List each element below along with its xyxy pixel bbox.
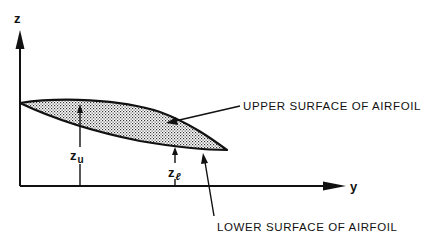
y-axis xyxy=(20,182,346,191)
airfoil-diagram: z y zu zℓ UPPER SURFACE OF AIRFOIL LOWER… xyxy=(0,0,425,248)
upper-surface-callout: UPPER SURFACE OF AIRFOIL xyxy=(243,100,421,112)
z-axis-arrowhead-icon xyxy=(16,30,25,49)
z-axis-label: z xyxy=(14,11,21,26)
y-axis-label: y xyxy=(350,179,358,194)
lower-surface-leader xyxy=(201,153,214,216)
y-axis-arrowhead-icon xyxy=(323,182,346,191)
upper-surface-leader xyxy=(166,106,240,125)
airfoil-section xyxy=(20,100,227,150)
upper-dimension-label: zu xyxy=(70,148,84,165)
lower-dimension-label: zℓ xyxy=(168,165,182,182)
lower-surface-callout: LOWER SURFACE OF AIRFOIL xyxy=(217,221,398,233)
arrowhead-icon xyxy=(172,147,178,155)
arrowhead-icon xyxy=(201,153,208,164)
z-axis xyxy=(16,30,25,186)
